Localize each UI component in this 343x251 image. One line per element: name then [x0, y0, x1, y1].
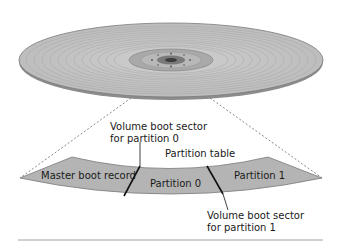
label-vbs1-line2: for partition 1	[207, 222, 276, 234]
label-partition-0: Partition 0	[150, 178, 201, 190]
label-vbs1-line1: Volume boot sector	[207, 210, 304, 222]
disk-hub	[129, 49, 213, 71]
disk-platter	[19, 23, 323, 100]
label-vbs0-line1: Volume boot sector	[110, 121, 207, 133]
callout-line-vbs1	[223, 194, 228, 210]
label-partition-1: Partition 1	[234, 170, 285, 182]
label-master-boot-record: Master boot record	[41, 170, 136, 182]
label-partition-table: Partition table	[165, 148, 235, 160]
label-vbs0-line2: for partition 0	[110, 133, 179, 145]
